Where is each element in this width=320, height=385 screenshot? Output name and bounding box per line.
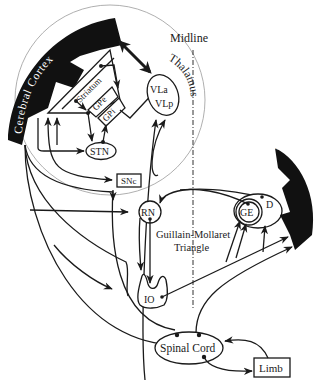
vlp-label: VLp xyxy=(155,98,173,109)
vla-label: VLa xyxy=(150,84,168,95)
limb-label: Limb xyxy=(259,362,283,374)
spinal-dot-1 xyxy=(175,333,179,337)
ascending-to-thalamus-path xyxy=(152,120,165,176)
gpe-to-stn-path xyxy=(88,113,92,141)
to-ge-path-1 xyxy=(226,221,240,262)
spinocerebellar-path xyxy=(196,247,292,333)
d-label: D xyxy=(266,199,273,210)
rn-descending-path xyxy=(139,218,141,270)
limb-to-spinal-path xyxy=(225,340,268,358)
rn-label: RN xyxy=(141,207,155,218)
spinal-dot-2 xyxy=(197,333,201,337)
thalamus-vl-node xyxy=(142,70,185,120)
ge-label: GE xyxy=(240,207,253,218)
stn-label: STN xyxy=(90,146,109,157)
d-output-dot xyxy=(260,195,264,199)
cortex-thalamus-connection xyxy=(120,42,150,72)
gm-triangle-label-line2: Triangle xyxy=(174,242,210,253)
gm-triangle-label-line1: Guillain-Mollaret xyxy=(156,229,230,240)
midline-label: Midline xyxy=(170,31,208,45)
cortex-to-rn-horizontal-path xyxy=(30,210,128,212)
motor-circuit-diagram: Midline Cerebral Cortex Striatum GPe GPi… xyxy=(0,0,320,385)
snc-label: SNc xyxy=(121,176,137,186)
cortex-io-arrow xyxy=(54,245,112,289)
stn-to-gpi-path xyxy=(103,125,106,142)
io-label: IO xyxy=(144,294,155,305)
cortex-to-stn-path xyxy=(38,118,84,151)
corticospinal-path xyxy=(25,145,185,345)
spinal-cord-label: Spinal Cord xyxy=(160,342,216,355)
